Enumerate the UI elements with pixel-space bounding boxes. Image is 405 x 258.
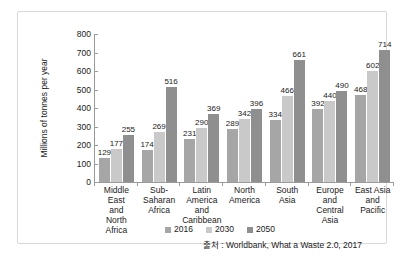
bar-value-label: 661 [293,50,306,59]
bar-group: 289342396 [223,34,266,182]
bar[interactable]: 231 [184,139,195,182]
bar[interactable]: 269 [154,132,165,182]
bar-fill [251,109,262,182]
bar-fill [99,158,110,182]
bar[interactable]: 396 [251,109,262,182]
bar[interactable]: 334 [270,120,281,182]
chart-legend: 201620302050 [35,225,405,234]
bar-fill [312,109,323,182]
bar-value-label: 174 [140,140,153,149]
bar[interactable]: 516 [166,87,177,182]
y-axis-tick-label: 300 [77,122,91,132]
category-label-line: Saharan [139,195,180,205]
bar[interactable]: 369 [208,114,219,182]
bar-value-label: 342 [238,109,251,118]
bar-fill [324,101,335,182]
category-label-line: Sub- [139,185,180,195]
bar-group: 174269516 [138,34,181,182]
bar-value-label: 490 [335,81,348,90]
bar-fill [142,150,153,182]
bar-group: 334466661 [266,34,309,182]
bar-group: 231290369 [180,34,223,182]
bar-group: 129177255 [95,34,138,182]
bar-value-label: 290 [195,118,208,127]
legend-swatch [165,227,171,233]
legend-item[interactable]: 2050 [247,225,275,234]
bar-fill [282,96,293,182]
source-attribution: 출처 : Worldbank, What a Waste 2.0, 2017 [203,238,362,250]
legend-label: 2050 [256,225,275,234]
bar[interactable]: 174 [142,150,153,182]
bar[interactable]: 466 [282,96,293,182]
bar-value-label: 231 [183,129,196,138]
bar[interactable]: 490 [336,91,347,182]
legend-label: 2016 [174,225,193,234]
category-label-line: Pacific [352,205,393,215]
bar[interactable]: 714 [379,50,390,182]
bar[interactable]: 129 [99,158,110,182]
bar-fill [154,132,165,182]
bar-fill [336,91,347,182]
bar[interactable]: 290 [196,128,207,182]
legend-swatch [206,227,212,233]
bar-value-label: 396 [250,99,263,108]
bar-value-label: 129 [98,148,111,157]
bar-fill [367,71,378,182]
bar-value-label: 466 [281,86,294,95]
y-axis-tick-label: 600 [77,66,91,76]
legend-item[interactable]: 2016 [165,225,193,234]
bar-fill [196,128,207,182]
bar-fill [239,119,250,182]
bar-value-label: 269 [152,122,165,131]
legend-swatch [247,227,253,233]
bar[interactable]: 468 [355,95,366,182]
bar[interactable]: 255 [123,135,134,182]
bar-value-label: 392 [311,99,324,108]
chart-screenshot: Millions of tonnes per year 010020030040… [0,0,405,258]
bar[interactable]: 661 [294,60,305,182]
legend-label: 2030 [215,225,234,234]
category-label-line: Middle East [96,185,137,205]
bar[interactable]: 392 [312,109,323,182]
y-axis-tick-label: 800 [77,29,91,39]
bar-fill [294,60,305,182]
plot-area: Millions of tonnes per year 010020030040… [68,34,394,182]
legend-item[interactable]: 2030 [206,225,234,234]
category-label-line: Europe and [310,185,351,205]
bar[interactable]: 342 [239,119,250,182]
bar[interactable]: 602 [367,71,378,182]
y-axis-tick-label: 200 [77,140,91,150]
bar-fill [111,149,122,182]
bar-value-label: 602 [366,61,379,70]
category-label-line: East Asia [352,185,393,195]
bar[interactable]: 440 [324,101,335,182]
category-label-line: Latin [181,185,222,195]
bar-value-label: 516 [164,77,177,86]
bar[interactable]: 177 [111,149,122,182]
category-label-line: Central Asia [310,205,351,225]
bar-group: 468602714 [351,34,394,182]
category-label-line: America [224,195,265,205]
bar-fill [184,139,195,182]
y-axis-tick-label: 0 [86,177,91,187]
bar[interactable]: 289 [227,129,238,182]
bar-value-label: 369 [207,104,220,113]
y-axis: 0100200300400500600700800 [68,34,94,182]
category-label-line: Africa [139,205,180,215]
category-label-line: and [96,205,137,215]
category-label-line: Asia [267,195,308,205]
bar-fill [123,135,134,182]
y-axis-tick-label: 500 [77,85,91,95]
bar-group: 392440490 [309,34,352,182]
bar-groups: 1291772551742695162312903692893423963344… [95,34,394,182]
y-axis-tick-label: 100 [77,159,91,169]
bar-value-label: 177 [110,139,123,148]
y-axis-tick-label: 700 [77,48,91,58]
bar-fill [227,129,238,182]
category-label-line: South [267,185,308,195]
y-axis-title: Millions of tonnes per year [38,34,50,182]
bar-fill [355,95,366,182]
bar-value-label: 334 [269,110,282,119]
bar-fill [166,87,177,182]
bar-value-label: 255 [122,125,135,134]
